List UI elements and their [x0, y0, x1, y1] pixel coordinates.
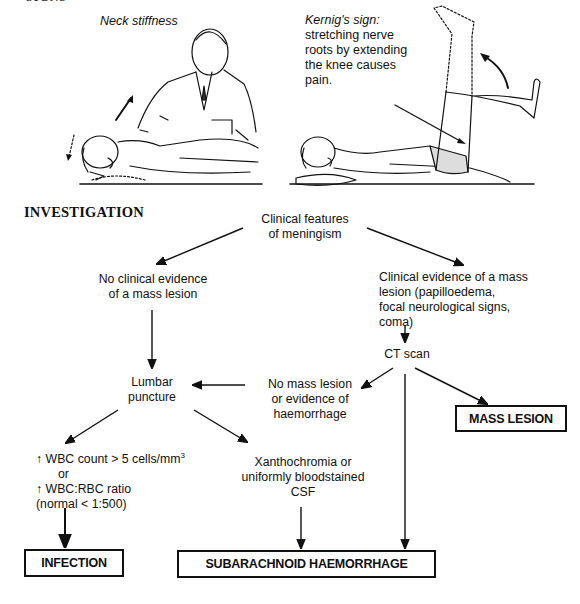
node-wbc-criteria: ↑ WBC count > 5 cells/mm3 or ↑ WBC:RBC r… — [36, 448, 216, 512]
node-line: (normal < 1:500) — [36, 497, 216, 512]
node-line: Xanthochromia or — [233, 455, 373, 470]
wbc-count-text: ↑ WBC count > 5 cells/mm — [36, 452, 181, 466]
node-line: coma) — [379, 315, 569, 330]
node-line: ↑ WBC:RBC ratio — [36, 482, 216, 497]
node-clinical-features: Clinical features of meningism — [240, 212, 370, 242]
node-line: or — [36, 467, 216, 482]
node-line: of meningism — [240, 227, 370, 242]
node-line: haemorrhage — [255, 407, 365, 422]
superscript: 3 — [181, 451, 185, 460]
arrow-ct-to-mass-lesion — [415, 368, 487, 404]
node-line: Lumbar — [120, 375, 184, 390]
node-clinical-evidence-mass: Clinical evidence of a mass lesion (papi… — [379, 270, 569, 330]
node-line: No clinical evidence — [86, 272, 220, 287]
node-line: focal neurological signs, — [379, 300, 569, 315]
outcome-infection: INFECTION — [24, 549, 124, 577]
node-line: Clinical features — [240, 212, 370, 227]
node-no-mass-lesion-ct: No mass lesion or evidence of haemorrhag… — [255, 377, 365, 422]
node-line: No mass lesion — [255, 377, 365, 392]
node-line: Clinical evidence of a mass — [379, 270, 569, 285]
node-line: puncture — [120, 390, 184, 405]
node-line: of a mass lesion — [86, 287, 220, 302]
node-lumbar-puncture: Lumbar puncture — [120, 375, 184, 405]
node-line: uniformly bloodstained — [233, 470, 373, 485]
arrow-start-to-no-mass — [157, 228, 243, 264]
arrow-ct-to-no-mass — [362, 368, 393, 388]
outcome-mass-lesion: MASS LESION — [455, 405, 567, 432]
node-ct-scan: CT scan — [370, 347, 444, 362]
node-line: ↑ WBC count > 5 cells/mm3 — [36, 448, 216, 467]
node-line: or evidence of — [255, 392, 365, 407]
arrow-lp-to-xantho — [194, 410, 247, 442]
node-xanthochromia: Xanthochromia or uniformly bloodstained … — [233, 455, 373, 500]
arrow-lp-to-wbc — [66, 410, 118, 443]
node-line: CSF — [233, 485, 373, 500]
node-no-clinical-evidence: No clinical evidence of a mass lesion — [86, 272, 220, 302]
outcome-subarachnoid-haemorrhage: SUBARACHNOID HAEMORRHAGE — [177, 550, 436, 578]
arrow-start-to-mass — [367, 228, 463, 265]
node-line: lesion (papilloedema, — [379, 285, 569, 300]
